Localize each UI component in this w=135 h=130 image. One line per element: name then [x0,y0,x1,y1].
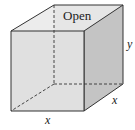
depth-label: x [111,93,118,107]
open-label: Open [63,8,92,23]
front-face [11,31,84,111]
open-box-diagram: Open y x x [0,0,135,130]
width-label: x [44,113,51,127]
height-label: y [126,37,133,51]
